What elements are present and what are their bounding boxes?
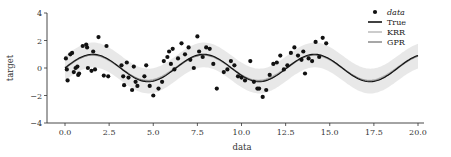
data-point [268,73,272,77]
data-point [162,59,166,63]
data-point [215,87,219,91]
data-point [222,70,226,74]
x-tick-label: 5.0 [147,128,160,137]
data-point [169,62,173,66]
data-point [201,55,205,59]
x-tick-label: 2.5 [103,128,116,137]
y-tick-label: −4 [30,119,42,128]
legend: dataTrueKRRGPR [368,8,406,47]
x-tick-label: 10.0 [233,128,251,137]
data-point [86,66,90,70]
data-point [85,45,89,49]
data-point [171,47,175,51]
data-point [232,63,236,67]
data-point [70,51,74,55]
data-point [125,60,129,64]
data-point [307,56,311,60]
data-point [148,84,152,88]
data-point [321,36,325,40]
data-point [282,67,286,71]
y-tick-label: 0 [37,64,42,73]
data-point [126,76,130,80]
data-point [144,63,148,67]
data-point [91,49,95,53]
data-point [167,49,171,53]
chart: 0.02.55.07.510.012.515.017.520.0−4−2024 … [0,0,451,157]
data-point [160,80,164,84]
data-point [135,84,139,88]
data-point [72,70,76,74]
data-point [75,65,79,69]
data-point [289,51,293,55]
data-point [176,56,180,60]
data-point [142,74,146,78]
data-point [179,41,183,45]
x-tick-label: 20.0 [409,128,427,137]
data-point [248,59,252,63]
data-point [239,76,243,80]
data-point [66,78,70,82]
y-axis-label: target [5,54,15,81]
data-point [187,45,191,49]
legend-label-krr: KRR [387,28,406,37]
data-point [121,74,125,78]
data-point [151,93,155,97]
data-point [96,35,100,39]
data-point [183,52,187,56]
data-point [292,45,296,49]
x-tick-label: 12.5 [277,128,295,137]
y-tick-label: 2 [37,37,42,46]
data-point [65,67,69,71]
gpr-confidence-band [65,43,418,94]
gpr-confidence-band-layer [65,43,418,94]
data-point [77,71,81,75]
data-point [119,63,123,67]
data-point [134,80,138,84]
data-point [208,47,212,51]
data-point [314,40,318,44]
data-point [211,62,215,66]
x-tick-label: 17.5 [365,128,383,137]
data-point [310,59,314,63]
legend-label-gpr: GPR [387,38,406,47]
data-point [156,87,160,91]
data-point [93,67,97,71]
data-point [275,60,279,64]
x-axis-label: data [233,142,252,152]
legend-marker-data [373,10,377,14]
data-point [261,95,265,99]
data-point [64,56,68,60]
data-point [102,74,106,78]
data-point [303,71,307,75]
data-point [225,67,229,71]
x-tick-label: 7.5 [191,128,204,137]
data-point [301,49,305,53]
data-point [243,78,247,82]
data-point [317,55,321,59]
data-point [296,54,300,58]
data-point [130,88,134,92]
data-point [122,83,126,87]
data-point [104,44,108,48]
data-point [188,58,192,62]
data-point [106,74,110,78]
data-point [264,88,268,92]
data-point [278,54,282,58]
data-point [195,34,199,38]
data-point [197,49,201,53]
legend-label-true: True [387,18,406,27]
data-point [257,87,261,91]
y-tick-label: 4 [37,9,42,18]
x-tick-label: 0.0 [59,128,72,137]
data-point [299,58,303,62]
data-point [229,59,233,63]
data-point [165,55,169,59]
data-point [192,66,196,70]
legend-label-data: data [387,8,405,17]
data-point [252,80,256,84]
data-point [172,67,176,71]
y-tick-label: −2 [30,92,42,101]
x-tick-label: 15.0 [321,128,339,137]
data-point [285,63,289,67]
data-point [324,41,328,45]
